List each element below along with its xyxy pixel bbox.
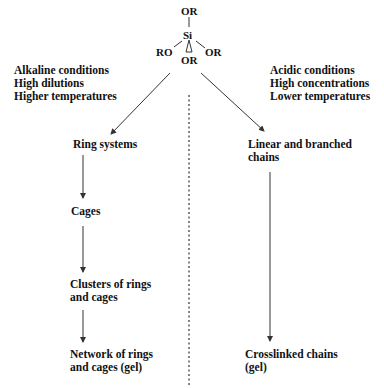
- right-condition-1: Acidic conditions: [270, 64, 355, 77]
- stage-linear-branched: Linear and branched chains: [248, 138, 352, 164]
- stage-network-gel: Network of rings and cages (gel): [70, 348, 153, 374]
- stage-label-line1: Clusters of rings: [70, 278, 151, 291]
- bond-left: [174, 41, 182, 47]
- bond-right: [196, 41, 205, 48]
- stage-label-line2: (gel): [245, 361, 338, 374]
- right-condition-3: Lower temperatures: [270, 90, 370, 103]
- stage-label-line2: chains: [248, 151, 352, 164]
- stage-ring-systems: Ring systems: [73, 138, 137, 151]
- stage-label: Cages: [71, 205, 100, 217]
- molecule-si: Si: [183, 29, 192, 41]
- bond-wedge: [186, 40, 192, 52]
- stage-crosslinked-gel: Crosslinked chains (gel): [245, 348, 338, 374]
- stage-label-line1: Linear and branched: [248, 138, 352, 151]
- molecule-bottom-or: OR: [181, 54, 198, 66]
- left-condition-3: Higher temperatures: [14, 90, 117, 103]
- stage-label-line2: and cages: [70, 291, 151, 304]
- arrow-to-ring-systems: [111, 73, 170, 134]
- molecule-top-or: OR: [181, 5, 198, 17]
- stage-label-line1: Crosslinked chains: [245, 348, 338, 361]
- stage-label: Ring systems: [73, 138, 137, 150]
- left-condition-1: Alkaline conditions: [14, 64, 109, 77]
- left-condition-2: High dilutions: [14, 77, 84, 90]
- stage-label-line1: Network of rings: [70, 348, 153, 361]
- stage-label-line2: and cages (gel): [70, 361, 153, 374]
- right-condition-2: High concentrations: [270, 77, 369, 90]
- molecule-right-or: OR: [205, 46, 222, 58]
- stage-clusters: Clusters of rings and cages: [70, 278, 151, 304]
- stage-cages: Cages: [71, 205, 100, 218]
- molecule-left-ro: RO: [156, 46, 173, 58]
- arrow-to-linear-chains: [201, 73, 264, 131]
